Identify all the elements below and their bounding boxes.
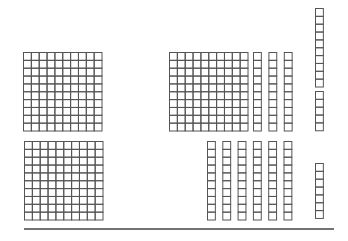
unit-cell <box>201 123 209 131</box>
unit-cell <box>55 53 63 61</box>
unit-cell <box>64 204 72 212</box>
unit-cell <box>24 53 32 61</box>
unit-cell <box>232 76 240 84</box>
unit-cell <box>64 142 72 150</box>
unit-cube <box>316 92 324 100</box>
unit-cell <box>86 92 94 100</box>
unit-cell <box>94 53 102 61</box>
unit-cell <box>201 53 209 61</box>
unit-cell <box>25 157 33 165</box>
ten-rod <box>254 53 262 132</box>
unit-cell <box>177 68 185 76</box>
unit-cube <box>316 99 324 107</box>
unit-cell <box>86 100 94 108</box>
unit-cell <box>316 40 324 48</box>
unit-cell <box>201 92 209 100</box>
unit-cell <box>223 157 231 165</box>
unit-cell <box>254 68 262 76</box>
unit-cell <box>269 204 277 212</box>
unit-cell <box>224 60 232 68</box>
unit-cell <box>24 76 32 84</box>
unit-cell <box>193 53 201 61</box>
unit-cell <box>224 68 232 76</box>
unit-cell <box>86 68 94 76</box>
unit-cell <box>269 189 277 197</box>
unit-cell <box>185 92 193 100</box>
unit-cell <box>63 100 71 108</box>
unit-cell <box>24 92 32 100</box>
unit-cell <box>223 165 231 173</box>
unit-cell <box>185 84 193 92</box>
unit-cell <box>55 76 63 84</box>
unit-cell <box>87 142 95 150</box>
unit-cell <box>269 107 277 115</box>
unit-cell <box>240 60 248 68</box>
unit-cell <box>253 165 261 173</box>
unit-cell <box>95 204 103 212</box>
unit-cell <box>48 157 56 165</box>
unit-cell <box>217 53 225 61</box>
unit-cell <box>170 123 178 131</box>
unit-cell <box>39 107 47 115</box>
hundred-flat <box>24 53 103 132</box>
ten-rod <box>269 53 277 132</box>
unit-cell <box>232 100 240 108</box>
unit-cell <box>56 196 64 204</box>
unit-cell <box>32 181 40 189</box>
unit-cell <box>63 84 71 92</box>
unit-cell <box>209 107 217 115</box>
unit-cell <box>177 115 185 123</box>
unit-cell <box>40 181 48 189</box>
unit-cell <box>31 123 39 131</box>
unit-cell <box>316 63 324 71</box>
unit-cell <box>316 48 324 56</box>
unit-cell <box>25 181 33 189</box>
unit-cell <box>170 115 178 123</box>
unit-cell <box>64 196 72 204</box>
unit-cell <box>32 212 40 220</box>
unit-cell <box>87 173 95 181</box>
unit-cell <box>284 84 292 92</box>
unit-cell <box>185 68 193 76</box>
unit-cell <box>209 123 217 131</box>
unit-cell <box>284 60 292 68</box>
unit-cell <box>86 107 94 115</box>
unit-cell <box>31 100 39 108</box>
unit-cell <box>87 189 95 197</box>
unit-cell <box>217 100 225 108</box>
unit-cell <box>170 60 178 68</box>
unit-cell <box>238 189 246 197</box>
unit-cell <box>94 60 102 68</box>
unit-cell <box>39 84 47 92</box>
unit-cell <box>72 196 80 204</box>
unit-cell <box>63 53 71 61</box>
unit-cell <box>224 115 232 123</box>
unit-cell <box>95 196 103 204</box>
unit-cell <box>232 107 240 115</box>
unit-cell <box>56 212 64 220</box>
unit-cell <box>32 149 40 157</box>
unit-cell <box>78 123 86 131</box>
unit-cube <box>316 171 324 179</box>
unit-cell <box>240 100 248 108</box>
unit-cell <box>48 165 56 173</box>
unit-cell <box>25 149 33 157</box>
unit-cell <box>78 60 86 68</box>
unit-cell <box>193 115 201 123</box>
far-right-ten-rod <box>316 9 324 88</box>
unit-cell <box>40 212 48 220</box>
unit-cell <box>284 115 292 123</box>
unit-cell <box>170 107 178 115</box>
unit-cell <box>223 173 231 181</box>
unit-cell <box>31 92 39 100</box>
unit-cell <box>238 212 246 220</box>
unit-cell <box>47 107 55 115</box>
unit-cell <box>25 212 33 220</box>
unit-cell <box>40 157 48 165</box>
unit-cell <box>224 100 232 108</box>
unit-cell <box>269 173 277 181</box>
unit-cell <box>71 68 79 76</box>
unit-cell <box>48 212 56 220</box>
unit-cell <box>238 149 246 157</box>
unit-cell <box>284 142 292 150</box>
